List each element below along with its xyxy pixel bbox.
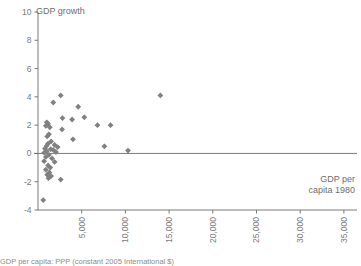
data-point-marker — [69, 117, 75, 123]
y-tick-label: 2 — [27, 120, 32, 130]
chart-canvas: -4-20246810 5,00010,00015,00020,00025,00… — [0, 0, 361, 266]
x-tick-label: 5,000 — [77, 217, 87, 239]
data-point-marker — [58, 177, 64, 183]
data-point-marker — [50, 100, 56, 106]
data-point-marker — [70, 136, 76, 142]
x-tick-label: 20,000 — [208, 217, 218, 243]
y-tick-label: -2 — [24, 177, 32, 187]
x-tick-label: 30,000 — [295, 217, 305, 243]
data-point-marker — [59, 126, 65, 132]
y-tick-label: 6 — [27, 64, 32, 74]
x-tick-label: 25,000 — [251, 217, 261, 243]
x-axis: 5,00010,00015,00020,00025,00030,00035,00… — [38, 210, 357, 243]
data-point-marker — [108, 122, 114, 128]
data-point-marker — [125, 148, 131, 154]
y-axis-title: GDP growth — [36, 6, 85, 16]
y-tick-label: -4 — [24, 205, 32, 215]
data-point-marker — [60, 115, 66, 121]
data-point-marker — [58, 93, 64, 99]
scatter-chart: -4-20246810 5,00010,00015,00020,00025,00… — [0, 0, 361, 266]
x-tick-label: 35,000 — [339, 217, 349, 243]
y-tick-label: 8 — [27, 35, 32, 45]
x-axis-title-line2: capita 1980 — [308, 185, 355, 195]
y-axis: -4-20246810 — [22, 7, 38, 215]
data-point-marker — [102, 143, 108, 149]
y-tick-label: 0 — [27, 148, 32, 158]
chart-caption: GDP per capita: PPP (constant 2005 Inter… — [0, 257, 174, 266]
data-points — [40, 93, 163, 203]
data-point-marker — [95, 122, 101, 128]
y-tick-label: 10 — [22, 7, 32, 17]
data-point-marker — [157, 93, 163, 99]
data-point-marker — [40, 197, 46, 203]
x-axis-title-line1: GDP per — [320, 174, 355, 184]
x-tick-label: 10,000 — [120, 217, 130, 243]
data-point-marker — [81, 114, 87, 120]
data-point-marker — [75, 104, 81, 110]
y-tick-label: 4 — [27, 92, 32, 102]
x-tick-label: 15,000 — [164, 217, 174, 243]
